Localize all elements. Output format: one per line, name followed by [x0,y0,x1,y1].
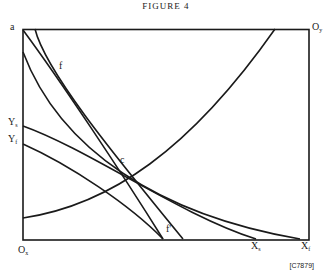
label-ys-sub: s [15,122,17,128]
label-yf: Yf [8,134,17,147]
label-xs-sub: s [258,246,260,252]
label-f-prime: f' [166,224,171,234]
edgeworth-box-diagram [0,0,332,278]
label-c: c [120,155,124,165]
label-ox-sub: x [25,250,28,256]
label-oy-sub: y [319,27,322,33]
budget-curve-ys-xs [23,126,256,239]
label-a: a [10,22,14,32]
label-xf-sub: f [308,246,310,252]
label-ys: Ys [8,117,18,130]
label-ox: Ox [18,245,28,258]
indifference-curve-to-xf [23,52,300,239]
label-oy: Oy [312,22,322,35]
label-xs: Xs [251,241,261,254]
label-yf-sub: f [15,139,17,145]
label-xf: Xf [301,241,310,254]
figure-reference: [C7879] [289,262,314,269]
curve-f-f-prime [35,29,183,239]
label-f: f [59,61,62,71]
